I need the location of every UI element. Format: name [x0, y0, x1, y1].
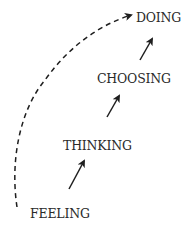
diagram-arrows: [0, 0, 191, 237]
arrow-thinking-to-choosing: [107, 96, 119, 117]
dashed-arrow-feeling-to-doing: [15, 15, 131, 207]
stage-label-doing: DOING: [136, 12, 181, 25]
arrow-feeling-to-thinking: [69, 161, 84, 189]
stage-label-thinking: THINKING: [63, 140, 132, 153]
stage-label-choosing: CHOOSING: [97, 73, 171, 86]
stage-label-feeling: FEELING: [30, 208, 90, 221]
arrow-choosing-to-doing: [140, 39, 152, 60]
feeling-to-doing-diagram: DOING CHOOSING THINKING FEELING: [0, 0, 191, 237]
